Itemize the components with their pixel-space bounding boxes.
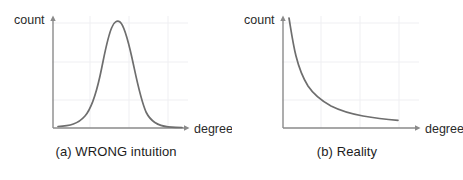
caption-a: (a) WRONG intuition — [0, 144, 232, 159]
y-axis-a — [50, 16, 55, 129]
gridlines-b — [282, 16, 419, 128]
caption-b: (b) Reality — [231, 144, 463, 159]
y-axis-b — [280, 16, 285, 129]
plot-area-b: count degree — [231, 0, 463, 145]
panel-reality: count degree (b) Reality — [231, 0, 463, 180]
y-axis-label-b: count — [244, 13, 275, 27]
y-axis-label-a: count — [14, 13, 45, 27]
x-axis-label-a: degree — [194, 122, 232, 136]
x-axis-label-b: degree — [425, 122, 463, 136]
power-law-curve — [289, 18, 398, 120]
degree-distribution-figure: count degree (a) WRONG intuition — [0, 0, 463, 180]
gaussian-curve — [58, 21, 182, 127]
plot-area-a: count degree — [0, 0, 232, 145]
x-axis-b — [283, 125, 421, 130]
gridlines-a — [52, 16, 188, 128]
panel-wrong-intuition: count degree (a) WRONG intuition — [0, 0, 232, 180]
